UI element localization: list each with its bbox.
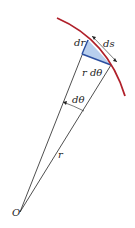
label-r-dtheta: r dθ: [82, 67, 102, 78]
label-dtheta: dθ: [72, 94, 84, 105]
diagram-canvas: dr ds r dθ dθ r O: [0, 0, 135, 228]
label-origin: O: [12, 207, 20, 218]
label-dr: dr: [74, 37, 86, 48]
label-r: r: [58, 149, 64, 160]
label-ds: ds: [103, 38, 115, 49]
radial-line-right: [20, 65, 111, 212]
polar-element-diagram: dr ds r dθ dθ r O: [0, 0, 135, 228]
radial-line-left: [20, 40, 88, 212]
